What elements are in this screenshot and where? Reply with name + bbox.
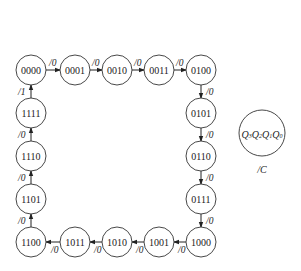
transition-label: /0 — [133, 58, 142, 68]
transition-label: /0 — [17, 216, 26, 226]
transition-arrow: /0 — [46, 242, 60, 255]
state-label: 1100 — [21, 237, 41, 248]
transition-label: /0 — [205, 216, 214, 226]
state-label: 0000 — [21, 65, 41, 76]
transition-arrow: /0 — [17, 214, 31, 227]
transition-label: /0 — [135, 245, 144, 255]
transition-label: /0 — [177, 245, 186, 255]
transition-arrow: /0 — [201, 128, 214, 141]
states: 0000000100100011010001010110011110001001… — [16, 55, 216, 257]
transition-label: /0 — [175, 58, 184, 68]
transition-arrow: /0 — [90, 58, 102, 70]
state-label: 0011 — [149, 65, 169, 76]
transition-label: /1 — [17, 87, 25, 97]
legend: Q3Q2Q1Q0 /C — [239, 110, 285, 175]
transitions: /0/0/0/0/0/0/0/0/0/0/0/0/0/0/0/1 — [17, 58, 214, 255]
transition-label: /0 — [50, 245, 59, 255]
transition-arrow: /0 — [132, 58, 144, 70]
state-node: 1111 — [16, 98, 46, 128]
legend-output-label: /C — [256, 164, 267, 175]
transition-label: /0 — [205, 173, 214, 183]
state-label: 0010 — [107, 65, 127, 76]
state-label: 1000 — [191, 237, 211, 248]
state-diagram: /0/0/0/0/0/0/0/0/0/0/0/0/0/0/0/1 0000000… — [0, 0, 301, 271]
transition-arrow: /0 — [201, 214, 214, 227]
transition-label: /0 — [205, 87, 214, 97]
transition-arrow: /0 — [17, 171, 31, 184]
transition-arrow: /0 — [201, 171, 214, 184]
transition-label: /0 — [93, 245, 102, 255]
transition-label: /0 — [17, 130, 26, 140]
state-label: 1010 — [107, 237, 127, 248]
transition-label: /0 — [17, 173, 26, 183]
state-label: 0101 — [191, 108, 211, 119]
state-label: 1011 — [65, 237, 85, 248]
state-node: 0011 — [144, 55, 174, 85]
transition-arrow: /0 — [174, 242, 186, 255]
state-node: 0100 — [186, 55, 216, 85]
state-label: 1101 — [21, 194, 41, 205]
transition-arrow: /0 — [46, 58, 60, 70]
state-node: 0001 — [60, 55, 90, 85]
state-label: 0001 — [65, 65, 85, 76]
state-node: 1100 — [16, 227, 46, 257]
transition-label: /0 — [205, 130, 214, 140]
transition-arrow: /0 — [201, 85, 214, 98]
state-node: 1001 — [144, 227, 174, 257]
state-label: 1111 — [22, 108, 41, 119]
transition-arrow: /0 — [90, 242, 102, 255]
state-label: 0100 — [191, 65, 211, 76]
state-node: 1010 — [102, 227, 132, 257]
state-node: 1000 — [186, 227, 216, 257]
transition-arrow: /0 — [174, 58, 186, 70]
state-node: 0000 — [16, 55, 46, 85]
state-node: 0101 — [186, 98, 216, 128]
state-node: 1110 — [16, 141, 46, 171]
legend-state-label: Q3Q2Q1Q0 — [242, 129, 283, 140]
state-label: 0111 — [191, 194, 210, 205]
state-node: 1101 — [16, 184, 46, 214]
state-label: 1001 — [149, 237, 169, 248]
state-node: 1011 — [60, 227, 90, 257]
transition-arrow: /1 — [17, 85, 31, 98]
state-label: 1110 — [21, 151, 40, 162]
transition-arrow: /0 — [17, 128, 31, 141]
state-node: 0111 — [186, 184, 216, 214]
transition-label: /0 — [48, 58, 57, 68]
transition-arrow: /0 — [132, 242, 144, 255]
transition-label: /0 — [91, 58, 100, 68]
state-label: 0110 — [191, 151, 211, 162]
state-node: 0110 — [186, 141, 216, 171]
state-node: 0010 — [102, 55, 132, 85]
